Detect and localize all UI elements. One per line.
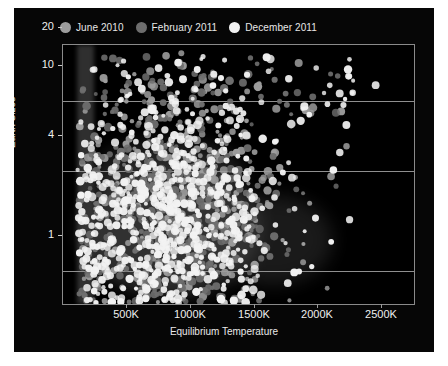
y-tick-label-20: 20 [24,20,54,32]
legend-label-june-2010: June 2010 [76,22,124,33]
legend-dot-december-2011 [229,22,240,33]
x-tick-label-500: 500K [103,308,149,320]
legend-label-december-2011: December 2011 [245,22,317,33]
x-tick-label-1000: 1000K [167,308,213,320]
legend-dot-february-2011 [136,22,147,33]
legend-label-february-2011: February 2011 [152,22,218,33]
legend: June 2010 February 2011 December 2011 [60,18,329,36]
y-tick-label-1: 1 [24,228,54,240]
x-tick-label-2000: 2000K [294,308,340,320]
scatter-points-canvas [63,45,414,304]
legend-item-december-2011[interactable]: December 2011 [229,22,317,33]
legend-item-june-2010[interactable]: June 2010 [60,22,124,33]
x-axis-label: Equilibrium Temperature [14,326,434,337]
figure-panel: June 2010 February 2011 December 2011 20… [14,8,434,352]
y-tick-mark-20 [58,27,62,28]
x-tick-label-2500: 2500K [358,308,404,320]
y-axis-label: Earth Sizes [14,97,17,148]
y-tick-label-10: 10 [24,58,54,70]
legend-item-february-2011[interactable]: February 2011 [136,22,218,33]
plot-area [62,44,415,305]
x-tick-label-1500: 1500K [231,308,277,320]
y-tick-label-4: 4 [24,128,54,140]
